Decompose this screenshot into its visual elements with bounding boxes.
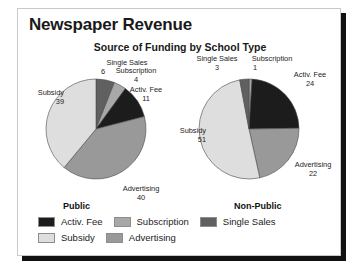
legend-item[interactable]: Subsidy: [38, 232, 95, 243]
legend-label: Subsidy: [61, 232, 95, 243]
legend-swatch: [114, 217, 131, 227]
chart-legend: Activ. FeeSubscriptionSingle SalesSubsid…: [38, 216, 338, 248]
charts-area: Subsidy 39 Single Sales 6 Subscription 4…: [18, 53, 342, 213]
pie-chart-non-public: Single Sales 3 Subscription 1 Activ. Fee…: [18, 53, 342, 213]
legend-label: Single Sales: [223, 216, 276, 227]
page-title: Newspaper Revenue: [29, 15, 192, 35]
label-subscription-value-non-public: 1: [253, 64, 257, 73]
label-activ-fee-non-public: Activ. Fee 24: [286, 71, 334, 88]
legend-item[interactable]: Advertising: [106, 232, 176, 243]
label-single-sales-non-public: Single Sales 3: [189, 55, 245, 72]
legend-swatch: [38, 233, 55, 243]
legend-item[interactable]: Subscription: [114, 216, 189, 227]
chart-card: Newspaper Revenue Source of Funding by S…: [17, 8, 341, 256]
legend-swatch: [200, 217, 217, 227]
category-label-non-public: Non-Public: [234, 201, 282, 211]
legend-label: Activ. Fee: [61, 216, 103, 227]
slide-frame: Newspaper Revenue Source of Funding by S…: [0, 0, 358, 278]
legend-swatch: [106, 233, 123, 243]
legend-label: Advertising: [129, 232, 176, 243]
legend-swatch: [38, 217, 55, 227]
legend-label: Subscription: [137, 216, 189, 227]
label-subsidy-non-public: Subsidy 51: [158, 127, 206, 144]
chart-subtitle: Source of Funding by School Type: [18, 41, 342, 53]
legend-item[interactable]: Single Sales: [200, 216, 276, 227]
legend-item[interactable]: Activ. Fee: [38, 216, 103, 227]
label-advertising-non-public: Advertising 22: [286, 161, 340, 178]
